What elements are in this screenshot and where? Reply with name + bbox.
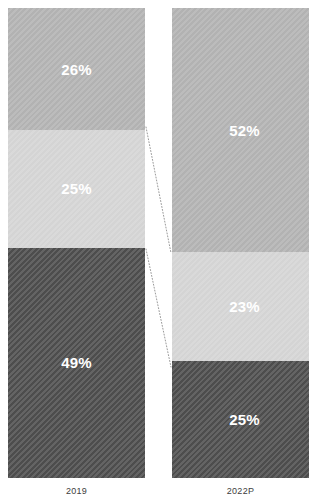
- segment-value-label: 49%: [61, 355, 92, 370]
- bar-segment-2019-bottom: 49%: [8, 248, 145, 478]
- bar-segment-2019-top: 26%: [8, 8, 145, 130]
- segment-value-label: 52%: [229, 123, 260, 138]
- bar-segment-2022p-bottom: 25%: [172, 361, 309, 479]
- segment-value-label: 26%: [61, 62, 92, 77]
- connector-line-upper: [146, 127, 171, 253]
- segment-value-label: 23%: [229, 299, 260, 314]
- category-label-2019: 2019: [8, 486, 145, 496]
- category-label-2022p: 2022P: [172, 486, 309, 496]
- bar-segment-2022p-top: 52%: [172, 8, 309, 252]
- bar-2022p: 52% 23% 25%: [172, 8, 309, 478]
- bar-segment-2022p-middle: 23%: [172, 252, 309, 360]
- bar-2019: 26% 25% 49%: [8, 8, 145, 478]
- connector-line-lower: [146, 249, 171, 367]
- bar-segment-2019-middle: 25%: [8, 130, 145, 248]
- stacked-bar-chart: 26% 25% 49% 52% 23% 25% 2019 2022P: [0, 0, 309, 501]
- segment-value-label: 25%: [61, 181, 92, 196]
- segment-value-label: 25%: [229, 412, 260, 427]
